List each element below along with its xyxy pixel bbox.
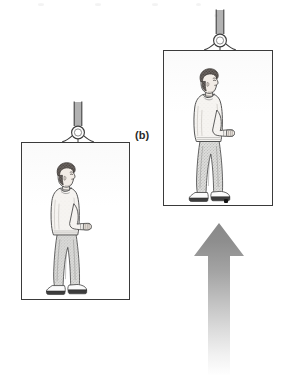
person-figure-lower: [40, 160, 98, 297]
figure-canvas: (b): [0, 0, 295, 376]
suspension-cable-lower: [59, 101, 97, 145]
elevator-assembly-lower: [0, 0, 295, 376]
acceleration-arrow: [192, 222, 246, 376]
